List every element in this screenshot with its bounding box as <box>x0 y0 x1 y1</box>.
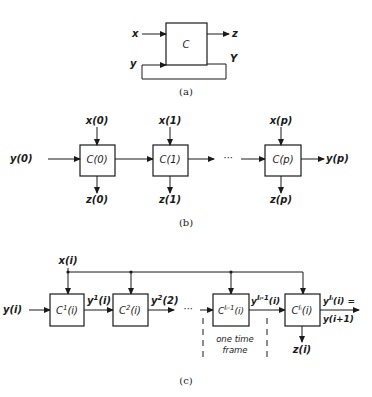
label-yIi: yIᵢ(i) = <box>323 294 355 306</box>
panel-a: C x z y Y (a) <box>130 23 239 97</box>
caption-b: (b) <box>179 217 193 228</box>
label-y1i: y1(i) <box>87 294 111 306</box>
label-yIi-1: yIᵢ-1(i) <box>251 294 280 306</box>
junction-dot <box>66 270 69 273</box>
diagram-canvas: C x z y Y (a) C(0) x(0) z(0) y(0) C(1) x… <box>0 0 372 397</box>
label-Y: Y <box>230 53 239 64</box>
label-x1: x(1) <box>158 115 182 126</box>
label-x: x <box>131 28 139 39</box>
label-xp: x(p) <box>269 115 293 126</box>
panel-b: C(0) x(0) z(0) y(0) C(1) x(1) z(1) ··· C… <box>10 115 349 228</box>
label-yp: y(p) <box>326 153 349 164</box>
block-c2i-label: C2(i) <box>119 304 141 316</box>
label-x0: x(0) <box>85 115 109 126</box>
label-y-i-plus-1: y(i+1) <box>323 314 354 324</box>
ellipsis-c: ··· <box>183 303 193 314</box>
block-c1i-label: C1(i) <box>56 304 78 316</box>
feedback-loop <box>142 64 226 79</box>
block-cp-label: C(p) <box>272 154 293 165</box>
label-zp: z(p) <box>269 194 292 205</box>
block-c-label: C <box>183 39 190 50</box>
panel-c: x(i) y(i) C1(i) y1(i) C2(i) y2(2) ··· CI… <box>3 255 359 386</box>
caption-a: (a) <box>179 86 193 97</box>
label-z0: z(0) <box>85 194 108 205</box>
label-z1: z(1) <box>158 194 181 205</box>
label-y: y <box>130 58 137 69</box>
caption-c: (c) <box>179 375 193 386</box>
label-y2: y2(2) <box>151 294 179 306</box>
ellipsis-b: ··· <box>223 152 233 163</box>
block-c0-label: C(0) <box>86 154 107 165</box>
label-yi: y(i) <box>3 304 22 315</box>
label-z: z <box>231 28 238 39</box>
label-y0: y(0) <box>10 153 33 164</box>
block-cIi-label: CIᵢ(i) <box>292 304 313 316</box>
block-c1-label: C(1) <box>159 154 180 165</box>
label-zi: z(i) <box>292 344 311 355</box>
time-frame-note-line2: frame <box>222 345 247 355</box>
time-frame-note-line1: one time <box>216 334 254 344</box>
label-xi: x(i) <box>57 255 77 266</box>
